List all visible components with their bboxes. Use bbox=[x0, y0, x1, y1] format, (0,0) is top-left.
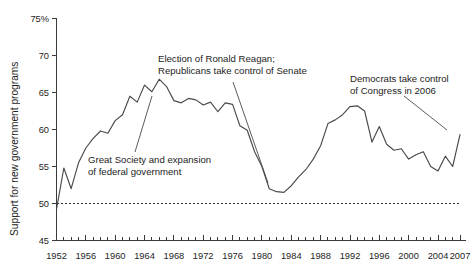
x-tick-label-4: 1968 bbox=[164, 251, 185, 261]
annotation-democrats-2006: Democrats take control of Congress in 20… bbox=[350, 73, 449, 96]
x-tick-marks bbox=[57, 235, 461, 241]
series-line-support bbox=[57, 79, 461, 209]
y-tick-label-1: 70 bbox=[39, 51, 49, 61]
x-tick-label-13: 2004 bbox=[428, 251, 449, 261]
annotation-great-society: Great Society and expansion of federal g… bbox=[88, 154, 211, 177]
leader-line-great-society bbox=[135, 96, 152, 152]
x-tick-label-6: 1976 bbox=[222, 251, 243, 261]
x-tick-labels: 1952 1956 1960 1964 1968 1972 1976 1980 … bbox=[46, 251, 470, 261]
y-tick-label-3: 60 bbox=[39, 125, 49, 135]
x-tick-label-7: 1980 bbox=[252, 251, 273, 261]
line-chart: 75% 70 65 60 55 50 45 Support for new go… bbox=[0, 0, 474, 271]
x-tick-label-1: 1956 bbox=[75, 251, 96, 261]
annotation-great-society-line2: of federal government bbox=[88, 166, 182, 177]
annotation-reagan-line1: Election of Ronald Reagan; bbox=[158, 53, 275, 64]
y-tick-marks bbox=[52, 19, 57, 241]
x-tick-label-0: 1952 bbox=[46, 251, 67, 261]
x-tick-label-5: 1972 bbox=[193, 251, 214, 261]
x-tick-label-3: 1964 bbox=[134, 251, 155, 261]
annotation-democrats-line1: Democrats take control bbox=[350, 73, 449, 84]
y-tick-label-4: 55 bbox=[39, 162, 49, 172]
annotation-democrats-line2: of Congress in 2006 bbox=[350, 85, 436, 96]
x-tick-label-10: 1992 bbox=[340, 251, 361, 261]
annotation-great-society-line1: Great Society and expansion bbox=[88, 154, 211, 165]
y-tick-label-6: 45 bbox=[39, 236, 49, 246]
leader-line-reagan bbox=[233, 82, 268, 183]
x-tick-label-12: 2000 bbox=[398, 251, 419, 261]
leader-line-democrats bbox=[404, 96, 447, 130]
annotation-reagan: Election of Ronald Reagan; Republicans t… bbox=[158, 53, 307, 76]
x-tick-label-14: 2007 bbox=[450, 251, 471, 261]
y-tick-label-5: 50 bbox=[39, 199, 49, 209]
y-tick-label-0: 75% bbox=[30, 14, 49, 24]
y-tick-label-2: 65 bbox=[39, 88, 49, 98]
chart-page: 75% 70 65 60 55 50 45 Support for new go… bbox=[0, 0, 474, 271]
x-tick-label-9: 1988 bbox=[310, 251, 331, 261]
x-tick-label-11: 1996 bbox=[369, 251, 390, 261]
y-axis-title: Support for new government programs bbox=[9, 62, 20, 236]
x-tick-label-8: 1984 bbox=[281, 251, 302, 261]
x-tick-label-2: 1960 bbox=[105, 251, 126, 261]
annotation-reagan-line2: Republicans take control of Senate bbox=[158, 65, 307, 76]
